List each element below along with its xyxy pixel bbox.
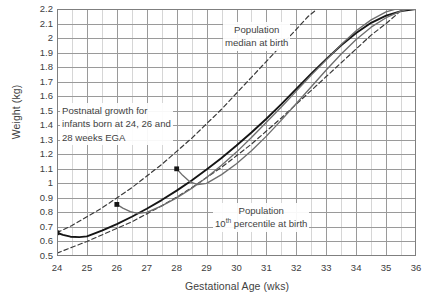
birth-marker [174, 166, 179, 171]
y-tick-label: 0.6 [23, 236, 53, 246]
y-tick-label: 1.5 [23, 106, 53, 116]
y-tick-label: 1.3 [23, 135, 53, 145]
annotation-postnatal-growth: Postnatal growth forinfants born at 24, … [60, 103, 173, 145]
y-tick-label: 2.2 [23, 4, 53, 14]
y-tick-label: 0.9 [23, 193, 53, 203]
y-tick-label: 0.7 [23, 222, 53, 232]
y-tick-label: 1.7 [23, 77, 53, 87]
x-tick-label: 27 [134, 263, 160, 273]
x-tick-label: 32 [283, 263, 309, 273]
y-axis-title: Weight (kg) [10, 62, 22, 162]
x-tick-label: 34 [343, 263, 369, 273]
y-tick-label: 1.1 [23, 164, 53, 174]
chart-figure: Weight (kg) Gestational Age (wks) 0.50.6… [0, 0, 434, 302]
y-tick-label: 1.4 [23, 120, 53, 130]
x-tick-label: 35 [373, 263, 399, 273]
y-tick-label: 1.2 [23, 149, 53, 159]
x-axis-title: Gestational Age (wks) [57, 280, 417, 292]
annotation-line: 10th percentile at birth [215, 217, 307, 230]
birth-marker [114, 202, 119, 207]
annotation-population-median: Populationmedian at birth [223, 22, 290, 51]
y-tick-label: 2.1 [23, 19, 53, 29]
annotation-line: Postnatal growth for [62, 104, 171, 117]
annotation-line: 28 weeks EGA [62, 131, 171, 144]
x-tick-label: 25 [74, 263, 100, 273]
x-tick-label: 26 [104, 263, 130, 273]
y-tick-label: 1.9 [23, 48, 53, 58]
y-tick-label: 0.5 [23, 251, 53, 261]
annotation-line: infants born at 24, 26 and [62, 117, 171, 130]
y-tick-label: 0.8 [23, 207, 53, 217]
annotation-line: median at birth [225, 36, 288, 49]
x-tick-label: 28 [164, 263, 190, 273]
annotation-population-p10: Population10th percentile at birth [213, 203, 309, 232]
x-tick-label: 29 [194, 263, 220, 273]
y-tick-label: 2 [23, 33, 53, 43]
annotation-line: Population [225, 23, 288, 36]
x-tick-label: 33 [313, 263, 339, 273]
y-tick-label: 1.6 [23, 91, 53, 101]
x-tick-label: 24 [44, 263, 70, 273]
y-tick-label: 1 [23, 178, 53, 188]
x-tick-label: 31 [253, 263, 279, 273]
x-tick-label: 30 [224, 263, 250, 273]
x-tick-label: 36 [403, 263, 429, 273]
annotation-line: Population [215, 204, 307, 217]
y-tick-label: 1.8 [23, 62, 53, 72]
